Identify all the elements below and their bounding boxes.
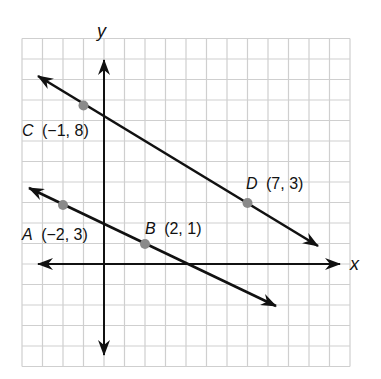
coordinate-plane-figure: x y C (−1, 8) D (7, 3) A (−2, 3) B (2, 1… bbox=[0, 0, 381, 379]
point-c bbox=[79, 101, 89, 111]
label-d-coords: (7, 3) bbox=[266, 175, 303, 192]
label-b: B (2, 1) bbox=[145, 220, 201, 237]
label-a-name: A bbox=[21, 226, 33, 243]
y-axis-label: y bbox=[95, 21, 107, 41]
point-d bbox=[243, 198, 253, 208]
label-c-name: C bbox=[22, 122, 34, 139]
label-d-name: D bbox=[246, 175, 258, 192]
label-d: D (7, 3) bbox=[246, 175, 303, 192]
label-a-coords: (−2, 3) bbox=[41, 226, 88, 243]
label-a: A (−2, 3) bbox=[21, 226, 88, 243]
point-a bbox=[58, 200, 68, 210]
grid bbox=[22, 39, 350, 367]
label-b-name: B bbox=[145, 220, 156, 237]
x-axis-label: x bbox=[349, 254, 360, 274]
label-b-coords: (2, 1) bbox=[164, 220, 201, 237]
label-c-coords: (−1, 8) bbox=[42, 122, 89, 139]
label-c: C (−1, 8) bbox=[22, 122, 89, 139]
point-b bbox=[140, 239, 150, 249]
